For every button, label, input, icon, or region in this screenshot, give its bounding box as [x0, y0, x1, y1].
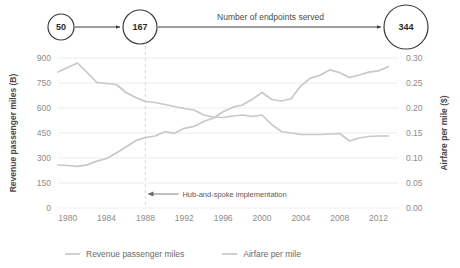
legend-item-2[interactable]: Airfare per mile — [222, 249, 301, 259]
chart-legend: Revenue passenger milesAirfare per mile — [0, 0, 460, 268]
legend-item-1[interactable]: Revenue passenger miles — [65, 249, 184, 259]
legend-label-2: Airfare per mile — [243, 249, 301, 259]
legend-label-1: Revenue passenger miles — [86, 249, 184, 259]
chart-figure: Number of endpoints served50167344 01503… — [0, 0, 460, 268]
